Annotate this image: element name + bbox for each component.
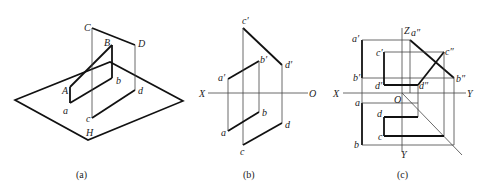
miter-line-45deg [402, 93, 462, 155]
label-b-dprime: b″ [456, 73, 466, 84]
line-ab [228, 112, 259, 131]
label-b: b [262, 107, 267, 118]
panel-b-two-view: c′ d′ b′ a′ X O a b c d (b) [198, 15, 316, 181]
label-C: C [84, 22, 91, 33]
label-c-dprime: c″ [445, 46, 454, 57]
label-b-prime: b′ [353, 72, 361, 83]
label-O: O [394, 94, 401, 105]
label-a-prime: a′ [352, 33, 360, 44]
label-d: d [138, 85, 144, 96]
label-H: H [85, 127, 94, 138]
label-d: d [285, 119, 291, 130]
label-d-prime: d′ [375, 80, 383, 91]
line-AB [70, 45, 112, 87]
label-d: d [377, 108, 383, 119]
label-Y-right: Y [467, 88, 474, 99]
label-A: A [61, 85, 69, 96]
label-d-dprime: d″ [419, 80, 429, 91]
line-a-prime-b-prime [228, 61, 259, 79]
label-a: a [63, 105, 68, 116]
label-X: X [198, 88, 206, 99]
label-c: c [86, 113, 91, 124]
label-a: a [221, 127, 226, 138]
label-b: b [116, 75, 121, 86]
label-c: c [378, 131, 383, 142]
label-d-prime: d′ [285, 59, 293, 70]
label-a-dprime: a″ [411, 27, 421, 38]
label-c-prime: c′ [242, 15, 249, 26]
label-X: X [332, 88, 340, 99]
label-a-prime: a′ [218, 72, 226, 83]
projection-figure: C D B A a b c d H (a) c′ d′ b′ a′ X O a … [0, 0, 483, 193]
line-cd [92, 90, 135, 118]
label-D: D [137, 38, 146, 49]
panel-c-three-view: Z X Y Y O a′ a″ c′ c″ b′ b″ d′ d″ a d c … [332, 25, 474, 181]
h-plane [15, 62, 183, 140]
panel-a-pictorial: C D B A a b c d H (a) [15, 22, 183, 181]
line-cd [243, 123, 282, 145]
caption-b: (b) [243, 169, 255, 181]
label-a: a [355, 97, 360, 108]
label-O: O [309, 88, 316, 99]
line-CD [92, 28, 135, 45]
label-Y-bottom: Y [401, 149, 408, 160]
label-b-prime: b′ [260, 54, 268, 65]
label-b: b [354, 139, 359, 150]
label-Z: Z [404, 25, 410, 36]
label-c: c [240, 146, 245, 157]
caption-c: (c) [397, 169, 408, 181]
caption-a: (a) [76, 169, 87, 181]
label-B: B [104, 37, 110, 48]
label-c-prime: c′ [376, 47, 383, 58]
